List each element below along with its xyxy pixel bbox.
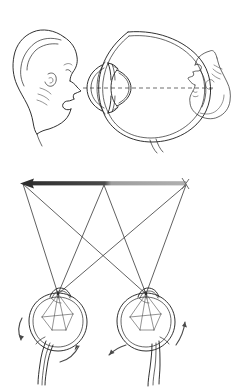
object-arrow	[20, 178, 189, 189]
arrowhead-left	[20, 178, 34, 188]
figure-canvas: Binocular vision and retinal image inver…	[0, 0, 234, 389]
ray-mid-to-left-eye	[58, 185, 104, 294]
ray-mid-to-right-eye	[104, 185, 146, 294]
panel-retinal-image-formation	[13, 30, 230, 153]
left-eyeball	[19, 288, 88, 385]
rotation-arrows-right-eye	[109, 322, 187, 355]
right-eyeball	[109, 288, 187, 386]
ray-tip-to-right-eye	[23, 184, 146, 294]
light-rays	[23, 184, 186, 294]
ray-tail-to-right-eye	[146, 185, 186, 294]
figure-root: Binocular vision and retinal image inver…	[0, 0, 234, 389]
observed-head-profile	[13, 30, 81, 146]
inverted-retinal-image	[188, 51, 230, 119]
panel-binocular-convergence	[19, 178, 190, 386]
ray-tip-to-left-eye	[23, 184, 58, 294]
ray-tail-to-left-eye	[58, 185, 186, 294]
rotation-arrows-left-eye	[19, 318, 80, 362]
